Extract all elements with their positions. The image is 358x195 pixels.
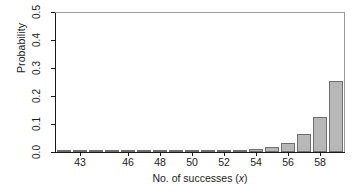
y-tick-label: 0.0 <box>31 139 43 165</box>
y-tick-label: 0.3 <box>31 55 43 81</box>
x-tick-label: 50 <box>180 155 204 169</box>
x-tick-label: 43 <box>68 155 92 169</box>
bar <box>329 81 343 152</box>
y-tick-label: 0.1 <box>31 111 43 137</box>
plot-box-right-border <box>344 12 345 153</box>
y-axis-label: Probability <box>13 0 29 97</box>
x-axis-label: No. of successes (x) <box>55 172 345 184</box>
x-tick-label: 48 <box>148 155 172 169</box>
x-tick-label: 52 <box>212 155 236 169</box>
x-axis-line <box>55 152 345 153</box>
x-axis-label-text: No. of successes <box>152 172 232 184</box>
x-axis-label-paren-close: ) <box>244 172 248 184</box>
x-tick-label: 58 <box>308 155 332 169</box>
bar <box>313 117 327 152</box>
x-tick-label: 56 <box>276 155 300 169</box>
plot-area <box>56 12 344 152</box>
x-tick-label: 46 <box>116 155 140 169</box>
bar <box>281 143 295 152</box>
y-tick-label: 0.5 <box>31 0 43 25</box>
y-tick-label: 0.4 <box>31 27 43 53</box>
x-tick-label: 54 <box>244 155 268 169</box>
y-tick-label: 0.2 <box>31 83 43 109</box>
probability-bar-chart: Probability 0.00.10.20.30.40.5 434648505… <box>0 0 358 195</box>
bar <box>297 134 311 152</box>
